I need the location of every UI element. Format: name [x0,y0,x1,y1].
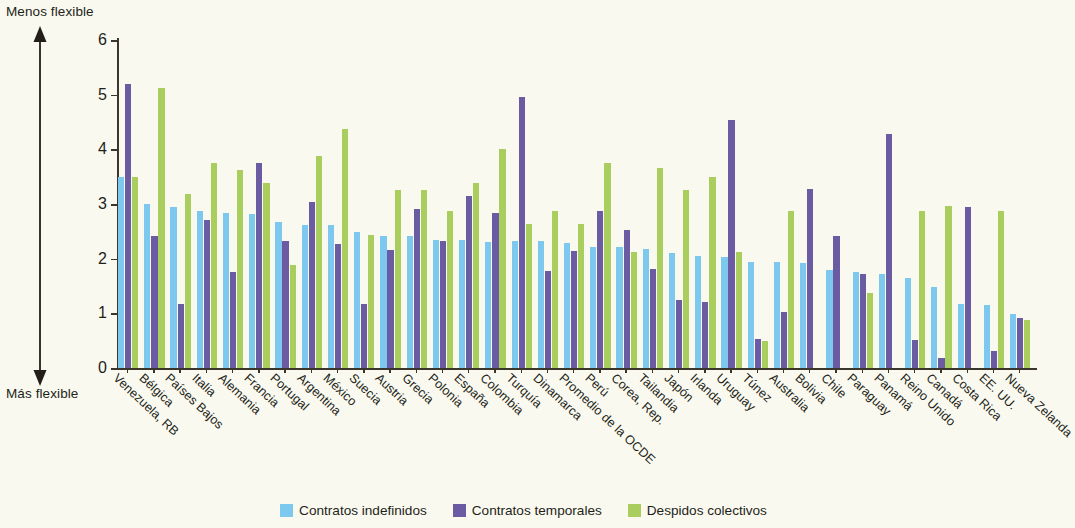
legend-item[interactable]: Contratos temporales [453,503,602,518]
bar[interactable] [826,270,832,368]
bar[interactable] [879,274,885,368]
bar-group[interactable] [459,40,485,368]
bar[interactable] [342,129,348,368]
bar-group[interactable] [144,40,170,368]
bar[interactable] [545,271,551,368]
bar[interactable] [676,300,682,368]
bar[interactable] [657,168,663,368]
bar[interactable] [788,211,794,368]
bar-group[interactable] [564,40,590,368]
bar[interactable] [151,236,157,368]
bar[interactable] [552,211,558,368]
bar[interactable] [860,274,866,368]
bar[interactable] [736,252,742,368]
bar-group[interactable] [354,40,380,368]
bar[interactable] [485,242,491,368]
bar-group[interactable] [853,40,879,368]
bar[interactable] [597,211,603,368]
bar-group[interactable] [433,40,459,368]
bar[interactable] [650,269,656,368]
bar-group[interactable] [643,40,669,368]
bar[interactable] [984,305,990,368]
bar-group[interactable] [1010,40,1036,368]
bar-group[interactable] [616,40,642,368]
bar[interactable] [144,204,150,368]
bar[interactable] [762,341,768,368]
bar[interactable] [867,293,873,368]
bar-group[interactable] [118,40,144,368]
bar-group[interactable] [905,40,931,368]
bar[interactable] [223,213,229,368]
bar[interactable] [604,163,610,368]
bar[interactable] [414,209,420,368]
bar[interactable] [1017,318,1023,368]
bar[interactable] [290,265,296,368]
bar[interactable] [335,244,341,368]
bar[interactable] [519,97,525,368]
bar-group[interactable] [721,40,747,368]
bar[interactable] [275,222,281,369]
bar[interactable] [807,189,813,368]
bar-group[interactable] [826,40,852,368]
bar[interactable] [709,177,715,368]
bar[interactable] [387,250,393,368]
bar-group[interactable] [197,40,223,368]
bar[interactable] [459,240,465,368]
bar[interactable] [945,206,951,368]
bar[interactable] [204,220,210,368]
bar[interactable] [721,257,727,368]
bar[interactable] [998,211,1004,368]
bar-group[interactable] [879,40,905,368]
bar-group[interactable] [223,40,249,368]
bar-group[interactable] [958,40,984,368]
bar[interactable] [774,262,780,368]
bar[interactable] [538,241,544,368]
bar[interactable] [512,241,518,368]
bar[interactable] [616,247,622,368]
bar[interactable] [282,241,288,368]
bar-group[interactable] [407,40,433,368]
bar[interactable] [211,163,217,368]
bar-group[interactable] [538,40,564,368]
legend-item[interactable]: Contratos indefinidos [280,503,427,518]
bar[interactable] [702,302,708,368]
bar[interactable] [302,225,308,368]
bar[interactable] [132,177,138,368]
bar[interactable] [421,190,427,368]
bar[interactable] [118,177,124,368]
bar[interactable] [395,190,401,368]
bar[interactable] [473,183,479,368]
bar[interactable] [361,304,367,368]
bar[interactable] [931,287,937,368]
bar[interactable] [571,251,577,368]
bar[interactable] [728,120,734,368]
bar[interactable] [466,196,472,368]
bar[interactable] [185,194,191,368]
bar[interactable] [249,214,255,368]
bar[interactable] [781,312,787,368]
bar-group[interactable] [249,40,275,368]
bar-group[interactable] [931,40,957,368]
bar-group[interactable] [170,40,196,368]
bar[interactable] [125,84,131,368]
bar[interactable] [800,263,806,368]
bar[interactable] [643,249,649,368]
bar-group[interactable] [328,40,354,368]
bar-group[interactable] [380,40,406,368]
bar[interactable] [833,236,839,368]
bar[interactable] [178,304,184,368]
bar[interactable] [695,256,701,368]
bar[interactable] [368,235,374,368]
bar[interactable] [886,134,892,368]
bar[interactable] [256,163,262,368]
bar[interactable] [755,339,761,368]
bar[interactable] [1010,314,1016,368]
bar[interactable] [197,211,203,368]
bar[interactable] [230,272,236,368]
bar[interactable] [433,240,439,368]
bar[interactable] [170,207,176,368]
bar[interactable] [669,253,675,368]
bar-group[interactable] [669,40,695,368]
bar-group[interactable] [302,40,328,368]
bar[interactable] [919,211,925,368]
